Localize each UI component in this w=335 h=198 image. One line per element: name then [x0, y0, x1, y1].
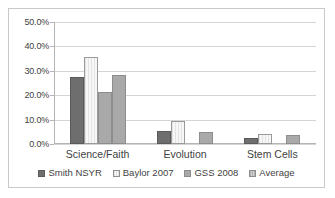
bar-slot [171, 22, 185, 144]
legend-item-average[interactable]: Average [249, 168, 294, 178]
bar-slot [157, 22, 171, 144]
bar[interactable] [244, 138, 258, 144]
legend-label: GSS 2008 [194, 168, 238, 178]
bar-group-stem-cells [229, 22, 316, 144]
bar-slot [199, 22, 213, 144]
y-tick-label: 0.0% [29, 140, 49, 149]
legend-swatch-icon [38, 170, 45, 177]
legend-swatch-icon [249, 170, 256, 177]
bar[interactable] [286, 135, 300, 144]
legend-item-gss-2008[interactable]: GSS 2008 [184, 168, 238, 178]
y-tick-mark [50, 144, 54, 145]
bar-slot [244, 22, 258, 144]
bar[interactable] [70, 77, 84, 144]
bar-slot [70, 22, 84, 144]
x-axis-label: Evolution [141, 148, 228, 160]
bar-group-science-faith [54, 22, 141, 144]
legend-label: Average [259, 168, 294, 178]
legend-item-baylor-2007[interactable]: Baylor 2007 [113, 168, 174, 178]
bar-slot [84, 22, 98, 144]
legend-swatch-icon [184, 170, 191, 177]
bar-slot [286, 22, 300, 144]
bar-group-evolution [141, 22, 228, 144]
x-axis-label: Science/Faith [54, 148, 141, 160]
bar[interactable] [112, 75, 126, 144]
y-tick-label: 50.0% [24, 18, 49, 27]
y-tick-label: 30.0% [24, 66, 49, 75]
bar-slot [98, 22, 112, 144]
bar[interactable] [258, 134, 272, 144]
bars-layer [54, 22, 316, 144]
chart-legend: Smith NSYRBaylor 2007GSS 2008Average [9, 168, 324, 178]
bar-slot [185, 22, 199, 144]
bar[interactable] [199, 132, 213, 144]
bar[interactable] [171, 121, 185, 144]
gridline [54, 144, 316, 145]
y-tick-label: 10.0% [24, 115, 49, 124]
bar-slot [258, 22, 272, 144]
bar-slot [272, 22, 286, 144]
legend-item-smith-nsyr[interactable]: Smith NSYR [38, 168, 101, 178]
legend-label: Baylor 2007 [123, 168, 174, 178]
bar-slot [112, 22, 126, 144]
legend-swatch-icon [113, 170, 120, 177]
bar[interactable] [98, 92, 112, 144]
x-axis-category-labels: Science/FaithEvolutionStem Cells [54, 148, 316, 160]
bar[interactable] [157, 131, 171, 144]
plot-area: 50.0%40.0%30.0%20.0%10.0%0.0% [54, 22, 316, 144]
legend-label: Smith NSYR [48, 168, 101, 178]
x-axis-label: Stem Cells [229, 148, 316, 160]
chart-frame: 50.0%40.0%30.0%20.0%10.0%0.0% Science/Fa… [8, 8, 325, 188]
y-tick-label: 40.0% [24, 42, 49, 51]
bar[interactable] [84, 57, 98, 144]
y-tick-label: 20.0% [24, 91, 49, 100]
